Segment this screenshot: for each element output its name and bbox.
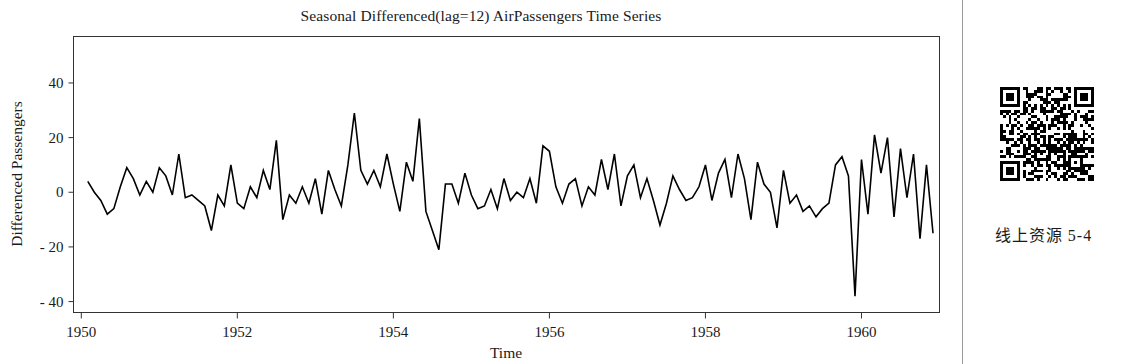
resource-caption: 线上资源 5-4 — [963, 222, 1124, 246]
series-line — [88, 113, 933, 296]
plot-frame — [74, 37, 940, 313]
qr-code-image — [1000, 87, 1094, 181]
y-axis-label: Differenced Passengers — [8, 101, 25, 247]
x-tick-label: 1958 — [690, 324, 720, 340]
y-tick-label: 20 — [49, 130, 64, 146]
x-tick-label: 1956 — [534, 324, 565, 340]
y-tick-label: - 40 — [40, 294, 64, 310]
y-axis-ticks: 40200- 20- 40 — [40, 75, 74, 310]
x-tick-label: 1960 — [846, 324, 876, 340]
chart-figure: Seasonal Differenced(lag=12) AirPassenge… — [0, 0, 962, 364]
x-axis-ticks: 195019521954195619581960 — [66, 313, 876, 340]
y-tick-label: - 20 — [40, 239, 64, 255]
x-tick-label: 1952 — [222, 324, 252, 340]
online-resource-panel: 线上资源 5-4 — [963, 0, 1124, 364]
y-tick-label: 40 — [49, 75, 64, 91]
qr-code[interactable] — [1000, 87, 1094, 181]
x-axis-label: Time — [490, 344, 522, 361]
y-tick-label: 0 — [56, 184, 64, 200]
time-series-plot: 40200- 20- 40 195019521954195619581960 D… — [0, 0, 962, 364]
series-lines — [88, 113, 933, 296]
x-tick-label: 1954 — [378, 324, 409, 340]
x-tick-label: 1950 — [66, 324, 96, 340]
